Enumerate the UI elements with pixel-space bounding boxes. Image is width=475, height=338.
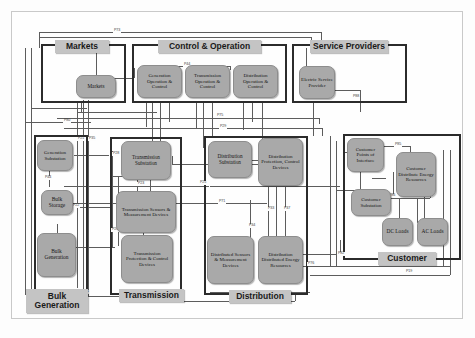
domain-control-operation-banner: Control & Operation <box>158 40 261 53</box>
label-p44b: P44 <box>44 176 52 180</box>
diagram-canvas: Markets Markets Control & Operation Gene… <box>0 0 475 338</box>
label-p25: P25 <box>199 181 207 185</box>
node-distribution-operation-control[interactable]: Distribution Operation & Control <box>233 65 278 98</box>
node-ac-loads[interactable]: AC Loads <box>417 218 448 246</box>
label-p28: P28 <box>112 152 120 156</box>
node-distribution-substation[interactable]: Distribution Substation <box>208 141 252 178</box>
domain-markets-banner: Markets <box>55 40 109 53</box>
node-customer-der[interactable]: Customer Distribute Energy Resources <box>396 152 436 197</box>
node-bulk-storage[interactable]: Bulk Storage <box>41 190 73 215</box>
node-markets[interactable]: Markets <box>76 75 116 98</box>
label-p73: P73 <box>113 29 121 33</box>
label-p35: P35 <box>88 137 96 141</box>
node-electric-service-provider[interactable]: Electric Service Provider <box>299 66 335 99</box>
label-p21: P21 <box>77 137 85 141</box>
node-transmission-protection[interactable]: Transmission Protection & Control Device… <box>121 235 173 283</box>
label-p82: P82 <box>337 252 345 256</box>
domain-transmission-banner: Transmission <box>119 289 184 302</box>
label-p29: P29 <box>219 125 227 129</box>
node-distributed-sensors[interactable]: Distributed Sensors & Measurement Device… <box>207 236 254 284</box>
node-distribution-protection[interactable]: Distribution Protection, Control Devices <box>258 138 303 186</box>
domain-customer-banner: Customer <box>378 252 436 265</box>
label-p22: P22 <box>72 204 80 208</box>
node-generation-substation[interactable]: Generation Substation <box>37 140 73 171</box>
label-p80: P80 <box>63 119 71 123</box>
node-dc-loads[interactable]: DC Loads <box>382 218 413 246</box>
label-p76: P76 <box>307 262 315 266</box>
label-p33: P33 <box>267 207 275 211</box>
domain-distribution-banner: Distribution <box>229 290 291 303</box>
node-bulk-generation[interactable]: Bulk Generation <box>37 233 76 277</box>
label-p19: P19 <box>405 270 413 274</box>
domain-bulk-generation-banner: Bulk Generation <box>26 289 88 313</box>
node-customer-substation[interactable]: Customer Substation <box>351 189 391 216</box>
label-p34: P34 <box>248 224 256 228</box>
label-p88: P88 <box>352 95 360 99</box>
node-customer-points-of-interface[interactable]: Customer Points of Interface <box>347 138 384 172</box>
label-p23: P23 <box>137 182 145 186</box>
label-p75: P75 <box>216 114 224 118</box>
node-distribution-der[interactable]: Distribution Distributed Energy Resource… <box>258 236 303 284</box>
node-transmission-substation[interactable]: Transmission Substation <box>121 141 171 180</box>
node-transmission-sensors[interactable]: Transmission Sensors & Measurement Devic… <box>116 191 176 233</box>
label-p71: P71 <box>218 200 226 204</box>
domain-service-providers-banner: Service Providers <box>310 40 388 53</box>
label-p85: P85 <box>394 143 402 147</box>
label-p37: P37 <box>283 207 291 211</box>
node-transmission-operation-control[interactable]: Transmission Operation & Control <box>185 65 230 98</box>
node-generation-operation-control[interactable]: Generation Operation & Control <box>137 65 182 98</box>
